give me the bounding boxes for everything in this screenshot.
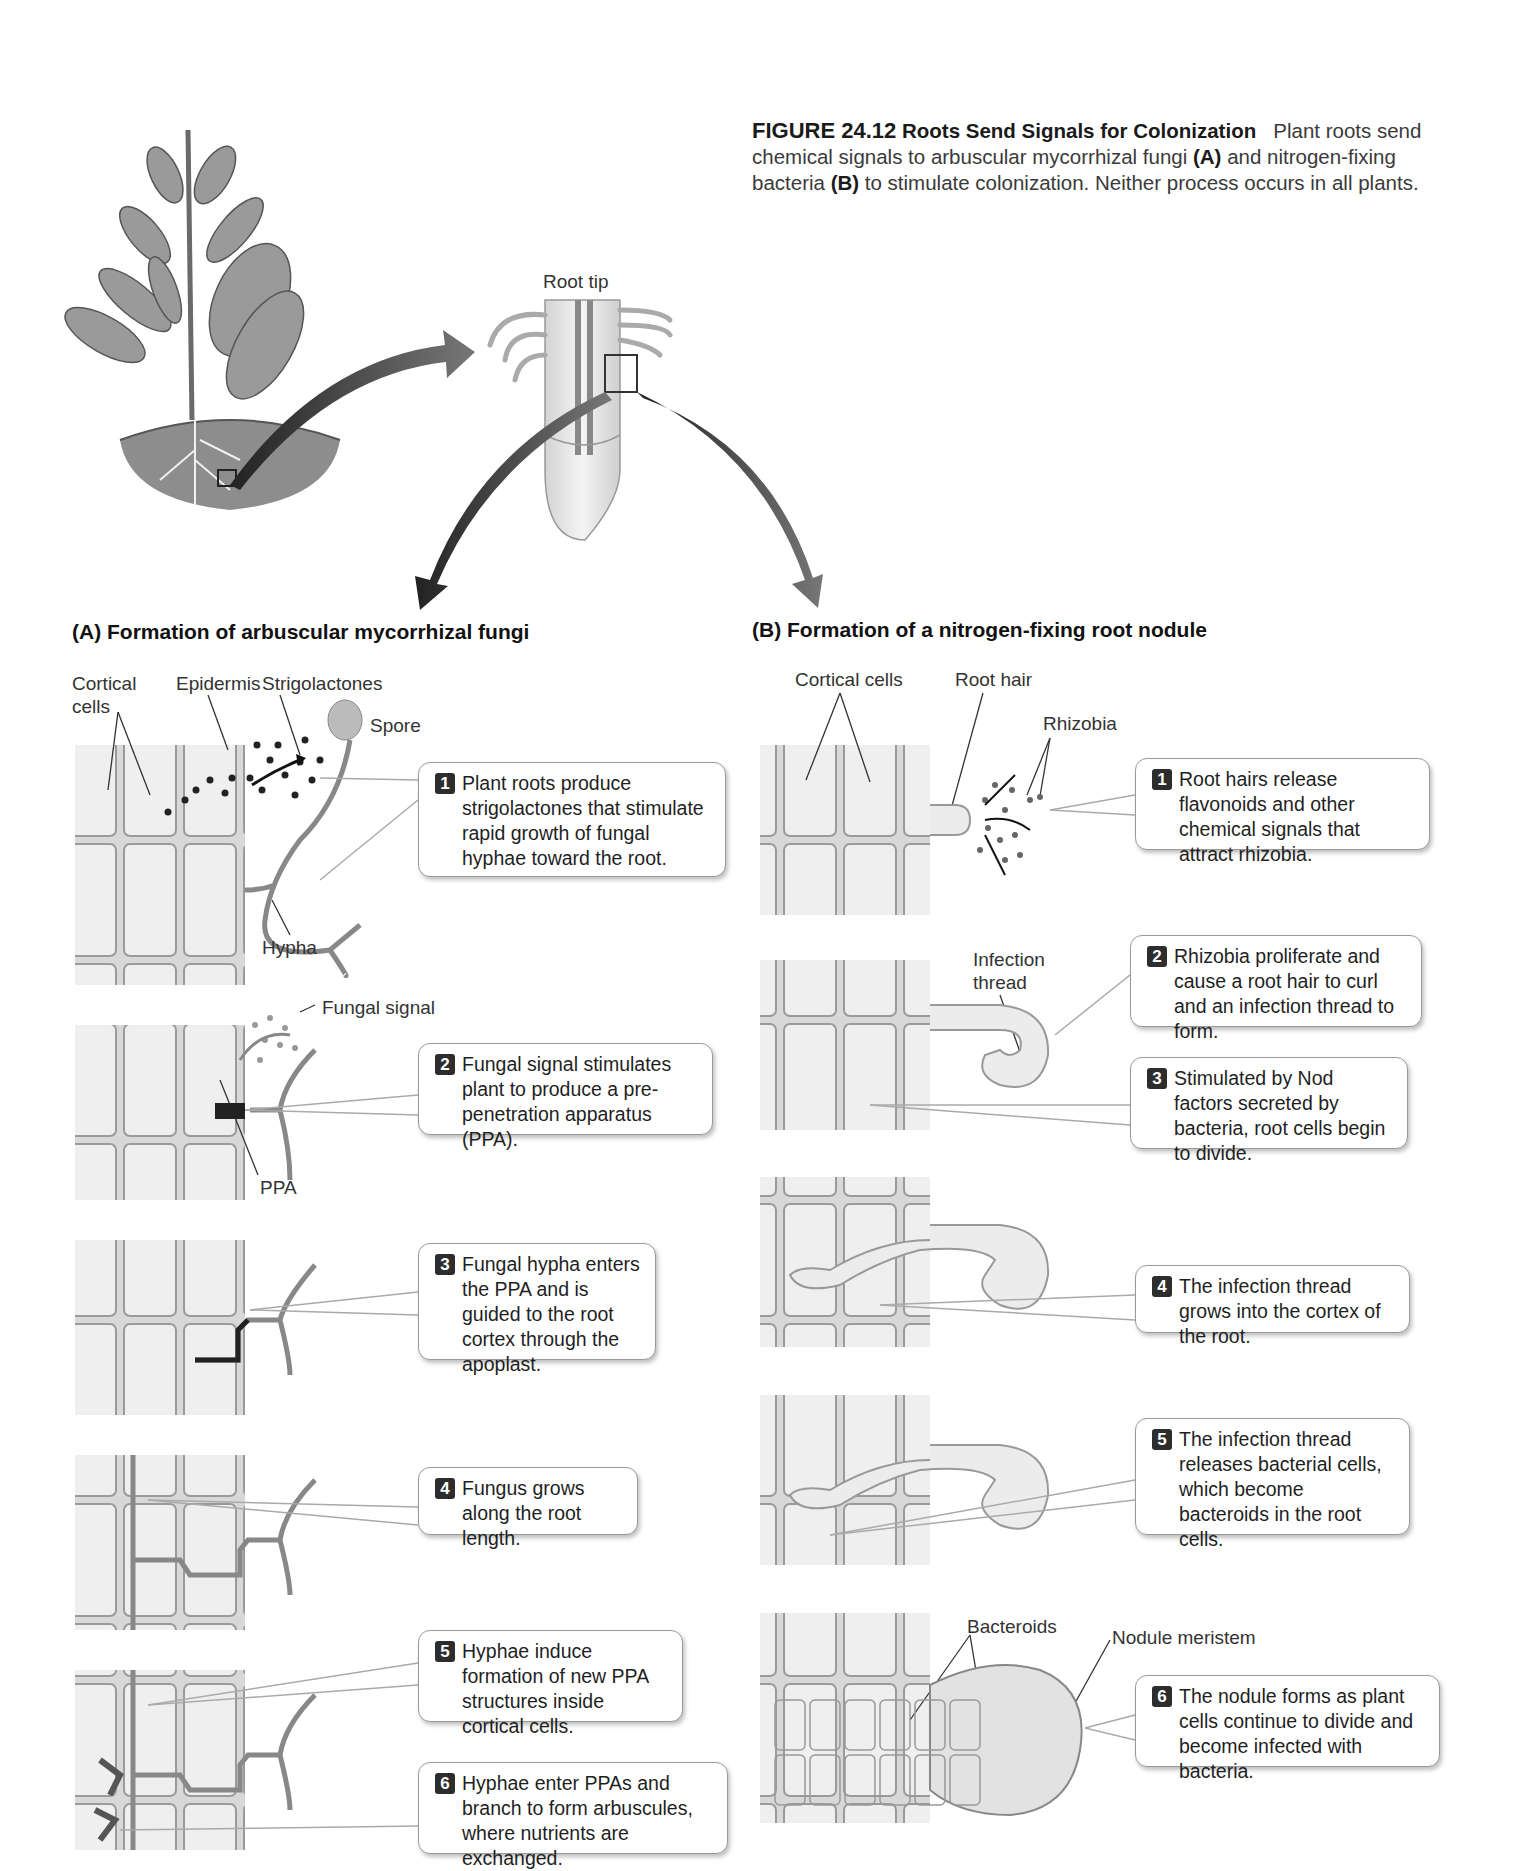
caption-text: to stimulate colonization. Neither proce…	[865, 171, 1419, 194]
step-badge: 3	[435, 1254, 455, 1275]
callout-a-step-5: 5Hyphae induce formation of new PPA stru…	[418, 1630, 683, 1722]
root-tip-illustration	[490, 300, 670, 540]
callout-b-step-4: 4The infection thread grows into the cor…	[1135, 1265, 1410, 1333]
callout-a-step-6: 6Hyphae enter PPAs and branch to form ar…	[418, 1762, 728, 1854]
step-badge: 5	[435, 1641, 455, 1662]
label-cortical-cells-b: Cortical cells	[795, 668, 903, 691]
figure-number: FIGURE 24.12	[752, 118, 896, 143]
step-badge: 5	[1152, 1429, 1172, 1450]
step-badge: 4	[1152, 1276, 1172, 1297]
step-badge: 6	[1152, 1686, 1172, 1707]
arrow-to-panel-b	[637, 392, 823, 608]
step-badge: 1	[1152, 769, 1172, 790]
panel-a-tissue	[75, 745, 245, 1850]
label-epidermis: Epidermis	[176, 672, 260, 695]
label-strigolactones: Strigolactones	[262, 672, 382, 695]
callout-a-step-3: 3Fungal hypha enters the PPA and is guid…	[418, 1243, 656, 1360]
label-cortical-cells: Corticalcells	[72, 672, 136, 718]
label-fungal-signal: Fungal signal	[322, 996, 435, 1019]
panel-b-tissue	[760, 745, 930, 1823]
callout-b-step-2: 2Rhizobia proliferate and cause a root h…	[1130, 935, 1422, 1027]
label-bacteroids: Bacteroids	[967, 1615, 1057, 1638]
callout-b-step-5: 5The infection thread releases bacterial…	[1135, 1418, 1410, 1535]
label-hypha: Hypha	[262, 936, 317, 959]
label-infection-thread: Infectionthread	[973, 948, 1045, 994]
panel-a-title: (A) Formation of arbuscular mycorrhizal …	[72, 620, 529, 644]
step-badge: 6	[435, 1773, 455, 1794]
step-badge: 3	[1147, 1068, 1167, 1089]
callout-a-step-4: 4Fungus grows along the root length.	[418, 1467, 638, 1535]
figure-caption: FIGURE 24.12 Roots Send Signals for Colo…	[752, 118, 1472, 196]
label-spore: Spore	[370, 714, 421, 737]
callout-b-step-1: 1Root hairs release flavonoids and other…	[1135, 758, 1430, 850]
step-badge: 2	[1147, 946, 1167, 967]
step-badge: 2	[435, 1054, 455, 1075]
callout-b-step-6: 6The nodule forms as plant cells continu…	[1135, 1675, 1440, 1767]
label-rhizobia: Rhizobia	[1043, 712, 1117, 735]
callout-b-step-3: 3Stimulated by Nod factors secreted by b…	[1130, 1057, 1408, 1149]
callout-a-step-1: 1Plant roots produce strigolactones that…	[418, 762, 726, 877]
root-tip-label: Root tip	[543, 270, 608, 293]
plant-illustration	[57, 130, 340, 510]
label-ppa: PPA	[260, 1176, 297, 1199]
step-badge: 1	[435, 773, 455, 794]
label-nodule-meristem: Nodule meristem	[1112, 1626, 1256, 1649]
figure-title: Roots Send Signals for Colonization	[902, 119, 1256, 142]
panel-b-title: (B) Formation of a nitrogen-fixing root …	[752, 618, 1207, 642]
caption-ref-a: (A)	[1193, 145, 1221, 168]
label-root-hair: Root hair	[955, 668, 1032, 691]
caption-ref-b: (B)	[831, 171, 859, 194]
step-badge: 4	[435, 1478, 455, 1499]
callout-a-step-2: 2Fungal signal stimulates plant to produ…	[418, 1043, 713, 1135]
